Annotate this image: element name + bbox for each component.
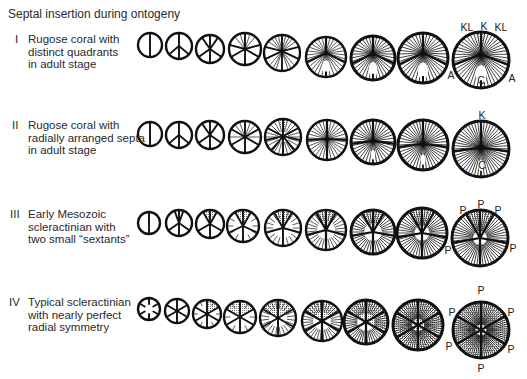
septum-label: KL xyxy=(461,21,474,33)
septum-label: P xyxy=(444,244,451,256)
diagram-row-iii: PPPPP xyxy=(138,198,517,266)
description-line: with nearly perfect xyxy=(28,309,131,322)
septa-diagram xyxy=(398,120,448,170)
septa-diagram xyxy=(138,212,160,234)
septum-label: A xyxy=(447,69,454,81)
axial-center xyxy=(478,145,484,151)
description-line: radially arranged septa xyxy=(28,132,145,145)
septa-diagram xyxy=(166,122,192,148)
axial-center xyxy=(371,139,375,143)
row-numeral: IV xyxy=(9,296,20,309)
description-line: Rugose coral with xyxy=(28,119,145,132)
axial-center xyxy=(325,137,329,141)
axial-center xyxy=(478,52,484,58)
row-description: Rugose coral withdistinct quadrantsin ad… xyxy=(28,33,119,71)
septum-label: P xyxy=(445,340,452,352)
major-septum xyxy=(307,139,327,140)
septa-diagram xyxy=(264,35,300,71)
septa-diagram xyxy=(452,210,508,266)
septum-label: K xyxy=(478,109,485,121)
septa-diagram xyxy=(398,33,448,83)
septa-diagram xyxy=(166,33,192,59)
septa-diagram xyxy=(227,210,259,242)
cardinal-fossula xyxy=(421,155,426,166)
septa-diagram xyxy=(393,300,443,350)
description-line: Typical scleractinian xyxy=(28,296,131,309)
septum-label: P xyxy=(494,204,501,216)
description-line: Rugose coral with xyxy=(28,33,119,46)
diagram-row-ii: KC xyxy=(138,109,509,177)
septum-label: A xyxy=(508,72,515,84)
septa-diagram xyxy=(351,210,395,254)
description-line: radial symmetry xyxy=(28,321,131,334)
septa-diagram xyxy=(196,35,224,63)
septa-diagram xyxy=(344,300,388,344)
septa-diagram xyxy=(138,298,160,320)
septa-diagram xyxy=(302,301,342,341)
septum-label: P xyxy=(477,198,484,210)
septa-diagram xyxy=(224,301,256,333)
septum-label: C xyxy=(478,159,486,171)
row-numeral: III xyxy=(10,208,20,221)
septa-diagram xyxy=(306,210,346,250)
septa-diagram xyxy=(453,302,509,358)
septa-diagram xyxy=(138,33,162,57)
septa-diagram xyxy=(260,300,296,336)
septa-diagram xyxy=(229,33,261,65)
septa-diagram xyxy=(265,210,301,246)
septum-label: C xyxy=(477,74,485,86)
axial-center xyxy=(371,51,375,55)
septa-diagram xyxy=(196,121,224,149)
septum-label: P xyxy=(509,242,516,254)
septum-label: K xyxy=(480,20,487,32)
row-description: Rugose coral withradially arranged septa… xyxy=(28,119,145,157)
axial-center xyxy=(421,141,426,146)
description-line: distinct quadrants xyxy=(28,46,119,59)
septum-label: KL xyxy=(495,21,508,33)
row-numeral: I xyxy=(15,33,18,46)
axial-center xyxy=(324,51,328,55)
diagram-row-iv: PPPPPP xyxy=(138,284,515,374)
septum-label: P xyxy=(477,284,484,296)
septum-label: P xyxy=(459,204,466,216)
row-numeral: II xyxy=(12,119,18,132)
description-line: Early Mesozoic xyxy=(28,208,130,221)
septum-label: P xyxy=(477,362,484,374)
description-line: in adult stage xyxy=(28,58,119,71)
description-line: in adult stage xyxy=(28,144,145,157)
description-line: scleractinian with xyxy=(28,221,130,234)
septa-diagram xyxy=(306,37,346,77)
cardinal-fossula xyxy=(371,150,375,160)
axial-center xyxy=(421,51,426,56)
septa-diagram xyxy=(265,119,301,155)
septum-label: P xyxy=(507,306,514,318)
septa-diagram xyxy=(397,208,447,258)
major-septum xyxy=(327,139,347,140)
septa-diagram xyxy=(307,120,347,160)
row-description: Typical scleractinianwith nearly perfect… xyxy=(28,296,131,334)
figure-title: Septal insertion during ontogeny xyxy=(8,7,180,21)
septa-diagram xyxy=(351,36,395,80)
septa-diagram xyxy=(193,300,221,328)
septum-label: P xyxy=(448,306,455,318)
description-line: two small “sextants” xyxy=(28,233,130,246)
septum-label: P xyxy=(507,343,514,355)
septa-diagram xyxy=(351,120,395,164)
diagram-row-i: KLKKLACA xyxy=(138,20,516,88)
septa-diagram xyxy=(196,210,224,238)
row-description: Early Mesozoicscleractinian withtwo smal… xyxy=(28,208,130,246)
septa-diagram xyxy=(229,121,261,153)
septa-diagram xyxy=(165,299,189,323)
septa-diagram xyxy=(166,210,192,236)
